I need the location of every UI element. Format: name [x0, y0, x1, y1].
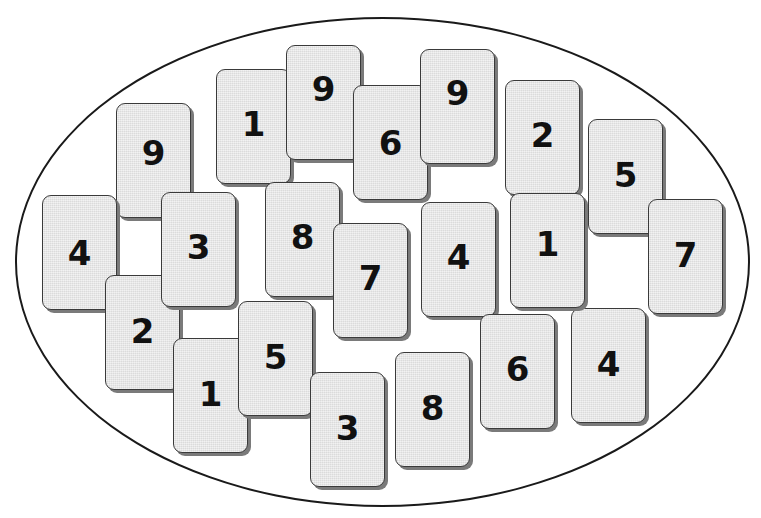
card-number: 7 — [359, 261, 383, 295]
card-number: 1 — [199, 377, 223, 411]
number-card[interactable]: 8 — [395, 352, 470, 467]
number-card[interactable]: 7 — [333, 223, 408, 338]
number-card[interactable]: 7 — [648, 199, 723, 314]
number-card[interactable]: 1 — [173, 338, 248, 453]
card-number: 8 — [291, 220, 315, 254]
number-card[interactable]: 5 — [238, 301, 313, 416]
number-card[interactable]: 9 — [286, 45, 361, 160]
card-number: 5 — [614, 158, 638, 192]
card-number: 5 — [264, 340, 288, 374]
card-number: 2 — [131, 314, 155, 348]
number-card[interactable]: 6 — [353, 85, 428, 200]
card-number: 8 — [421, 391, 445, 425]
number-card[interactable]: 2 — [505, 80, 580, 195]
number-card[interactable]: 3 — [161, 192, 236, 307]
number-card[interactable]: 1 — [216, 69, 291, 184]
number-card[interactable]: 8 — [265, 182, 340, 297]
number-card[interactable]: 1 — [510, 193, 585, 308]
number-card[interactable]: 6 — [480, 314, 555, 429]
number-card[interactable]: 3 — [310, 372, 385, 487]
number-card[interactable]: 4 — [421, 202, 496, 317]
card-number: 3 — [187, 230, 211, 264]
card-number: 9 — [446, 76, 470, 110]
card-number: 6 — [506, 352, 530, 386]
card-number: 2 — [531, 118, 555, 152]
card-number: 3 — [336, 411, 360, 445]
card-number: 4 — [68, 236, 92, 270]
card-number: 4 — [447, 240, 471, 274]
card-number: 4 — [597, 347, 621, 381]
card-number: 6 — [379, 126, 403, 160]
card-number: 7 — [674, 238, 698, 272]
number-card[interactable]: 4 — [571, 308, 646, 423]
card-number: 1 — [536, 227, 560, 261]
card-number: 9 — [312, 72, 336, 106]
card-number: 1 — [242, 107, 266, 141]
number-card[interactable]: 9 — [420, 49, 495, 164]
card-number: 9 — [142, 136, 166, 170]
